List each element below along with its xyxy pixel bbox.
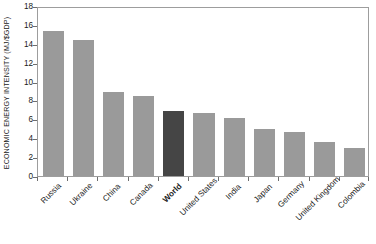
- bar-china: [103, 92, 124, 176]
- y-tick-label-10: 10: [14, 78, 33, 86]
- bar-canada: [133, 96, 154, 176]
- bar-germany: [284, 132, 305, 176]
- x-label-canada: Canada: [128, 181, 155, 208]
- x-label-china: China: [101, 182, 123, 204]
- x-axis-tick-labels: RussiaUkraineChinaCanadaWorldUnited Stat…: [37, 181, 376, 244]
- y-axis-title: ECONOMIC ENERGY INTENSITY (MJ/$GDP): [0, 0, 14, 186]
- y-tick-mark-12: [33, 64, 37, 65]
- x-label-india: India: [224, 183, 243, 202]
- bar-japan: [254, 129, 275, 176]
- y-tick-label-6: 6: [14, 116, 33, 124]
- y-tick-label-4: 4: [14, 135, 33, 143]
- y-tick-label-14: 14: [14, 41, 33, 49]
- y-tick-mark-10: [33, 83, 37, 84]
- y-tick-mark-0: [33, 177, 37, 178]
- y-tick-mark-16: [33, 26, 37, 27]
- x-label-ukraine: Ukraine: [68, 181, 94, 207]
- y-axis-tick-labels: 024681012141618: [14, 0, 33, 186]
- x-label-world: World: [161, 182, 184, 205]
- bar-colombia: [344, 148, 365, 176]
- y-tick-label-8: 8: [14, 97, 33, 105]
- bar-united-states: [193, 113, 214, 176]
- x-label-russia: Russia: [39, 181, 63, 205]
- y-tick-mark-14: [33, 45, 37, 46]
- bar-india: [224, 118, 245, 176]
- economic-energy-intensity-bar-chart: ECONOMIC ENERGY INTENSITY (MJ/$GDP) 0246…: [0, 0, 376, 244]
- plot-area: [37, 7, 369, 177]
- y-tick-label-12: 12: [14, 60, 33, 68]
- y-tick-label-2: 2: [14, 154, 33, 162]
- y-tick-label-0: 0: [14, 173, 33, 181]
- bar-ukraine: [73, 40, 94, 176]
- y-tick-label-16: 16: [14, 22, 33, 30]
- y-tick-label-18: 18: [14, 3, 33, 11]
- x-label-united-states: United States: [178, 176, 219, 217]
- y-tick-mark-8: [33, 101, 37, 102]
- bar-united-kingdom: [314, 142, 335, 176]
- y-tick-mark-6: [33, 120, 37, 121]
- x-label-colombia: Colombia: [336, 179, 367, 210]
- y-tick-mark-4: [33, 139, 37, 140]
- x-label-germany: Germany: [276, 180, 306, 210]
- bar-russia: [43, 31, 64, 176]
- y-tick-mark-18: [33, 7, 37, 8]
- y-tick-mark-2: [33, 158, 37, 159]
- y-axis-title-text: ECONOMIC ENERGY INTENSITY (MJ/$GDP): [3, 17, 11, 169]
- bar-world: [163, 111, 184, 176]
- x-label-japan: Japan: [252, 182, 274, 204]
- bars-layer: [38, 8, 368, 176]
